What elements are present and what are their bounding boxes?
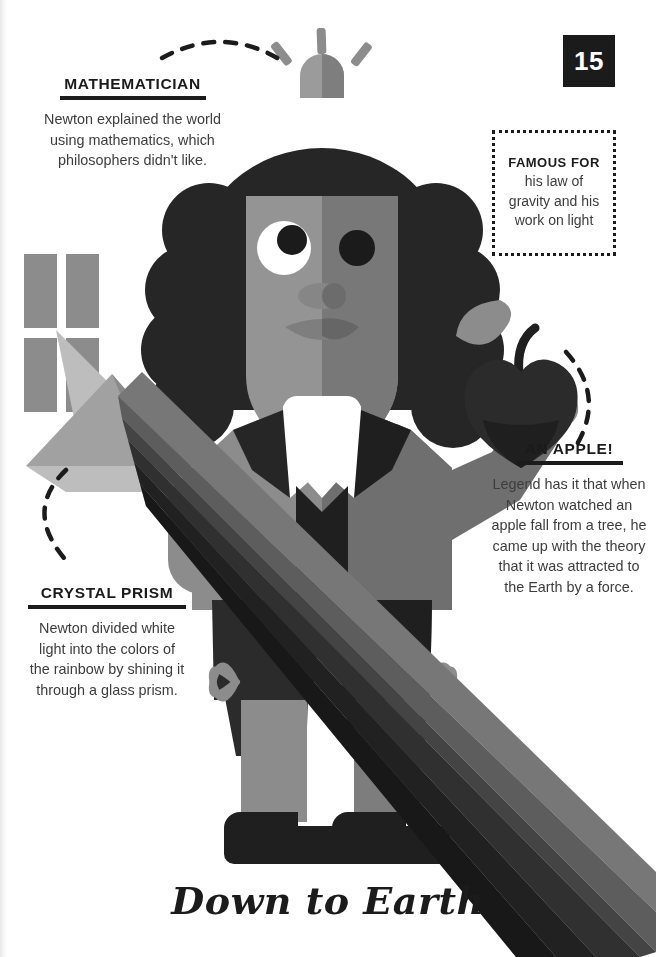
callout-heading: CRYSTAL PRISM (12, 584, 202, 602)
page-canvas: MATHEMATICIAN Newton explained the world… (0, 0, 656, 957)
callout-mathematician: MATHEMATICIAN Newton explained the world… (25, 75, 240, 171)
page-title: Down to Earth (0, 878, 656, 923)
callout-heading: AN APPLE! (484, 440, 654, 458)
heading-rule (60, 96, 206, 100)
idea-bulb-icon (270, 28, 373, 98)
heading-rule (516, 461, 623, 465)
eye-right (339, 230, 375, 266)
famous-for-box: FAMOUS FOR his law of gravity and his wo… (492, 130, 616, 256)
heading-rule (28, 605, 186, 609)
famous-for-text: his law of gravity and his work on light (509, 172, 599, 231)
callout-crystal-prism: CRYSTAL PRISM Newton divided white light… (12, 584, 202, 700)
callout-heading: MATHEMATICIAN (25, 75, 240, 93)
callout-an-apple: AN APPLE! Legend has it that when Newton… (484, 440, 654, 597)
famous-for-title: FAMOUS FOR (508, 155, 600, 170)
callout-body: Newton divided white light into the colo… (12, 618, 202, 700)
callout-body: Legend has it that when Newton watched a… (484, 474, 654, 597)
callout-body: Newton explained the world using mathema… (25, 109, 240, 171)
dashed-curve-mathematician (162, 42, 284, 62)
page-number-badge: 15 (563, 35, 615, 87)
